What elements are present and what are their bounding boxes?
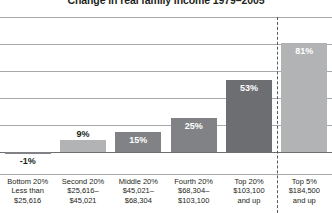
bar-value-label: 9% [60, 129, 106, 139]
category-label: Middle 20%$45,021–$68,304 [111, 177, 166, 205]
category-label-range: $25,616 [0, 196, 55, 205]
bar-value-label: -1% [5, 156, 51, 166]
category-label-name: Top 5% [277, 177, 332, 186]
bar [5, 152, 51, 154]
bar-value-label: 53% [226, 83, 272, 93]
category-label-range: and up [221, 196, 276, 205]
chart-title: Change in real family income 1979–2005 [0, 0, 332, 6]
category-label-range: and up [277, 196, 332, 205]
category-label-name: Middle 20% [111, 177, 166, 186]
category-label: Top 20%$103,100and up [221, 177, 276, 205]
category-axis-labels: Bottom 20%Less than$25,616Second 20%$25,… [0, 177, 332, 213]
category-label-range: $45,021 [55, 196, 110, 205]
category-label-range: $103,100 [166, 196, 221, 205]
category-label-name: Fourth 20% [166, 177, 221, 186]
plot-area: -1%9%15%25%53%81% [0, 17, 332, 169]
bar-value-label: 15% [115, 135, 161, 145]
category-label-range: $68,304– [166, 186, 221, 195]
category-label-range: Less than [0, 186, 55, 195]
category-label: Fourth 20%$68,304–$103,100 [166, 177, 221, 205]
bar-value-label: 81% [281, 46, 327, 56]
category-label-name: Top 20% [221, 177, 276, 186]
category-label-range: $45,021– [111, 186, 166, 195]
category-label-range: $103,100 [221, 186, 276, 195]
category-label: Bottom 20%Less than$25,616 [0, 177, 55, 205]
category-label-name: Bottom 20% [0, 177, 55, 186]
gridline [0, 17, 332, 18]
chart-container: Change in real family income 1979–2005 -… [0, 0, 332, 213]
category-axis-line [0, 174, 332, 175]
category-label-range: $184,500 [277, 186, 332, 195]
category-label: Top 5%$184,500and up [277, 177, 332, 205]
bar [281, 43, 327, 152]
category-label-range: $68,304 [111, 196, 166, 205]
bar [60, 140, 106, 152]
category-label-range: $25,616– [55, 186, 110, 195]
category-label: Second 20%$25,616–$45,021 [55, 177, 110, 205]
bar-value-label: 25% [171, 121, 217, 131]
category-label-name: Second 20% [55, 177, 110, 186]
